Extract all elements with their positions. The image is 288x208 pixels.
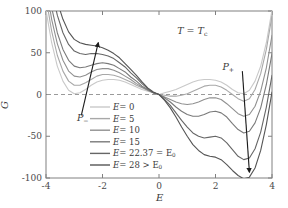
x-tick-label: 0 bbox=[150, 182, 168, 191]
temperature-condition: T = Tc bbox=[177, 26, 207, 37]
legend-label-E=5: E= 5 bbox=[113, 115, 134, 124]
x-axis-label: E bbox=[156, 193, 163, 203]
curve-E=5 bbox=[46, 0, 272, 101]
curve-E=22.37 bbox=[46, 0, 272, 160]
y-tick-label: 0 bbox=[14, 91, 42, 100]
x-tick-label: 4 bbox=[263, 182, 281, 191]
figure-container: -4-2024-100-50050100 G E T = TcP−P+ E= 0… bbox=[0, 0, 288, 208]
p-minus-label: P− bbox=[77, 113, 89, 124]
curve-E=0 bbox=[46, 10, 272, 94]
x-tick-label: -2 bbox=[94, 182, 112, 191]
y-tick-label: -50 bbox=[14, 132, 42, 141]
legend-label-E=28: E= 28 > E0 bbox=[113, 161, 162, 171]
p-plus-arrow bbox=[242, 71, 249, 172]
legend-swatches bbox=[90, 107, 110, 165]
y-tick-label: 50 bbox=[14, 49, 42, 58]
legend-label-E=0: E= 0 bbox=[113, 103, 134, 112]
chart-canvas bbox=[0, 0, 288, 208]
x-tick-label: -4 bbox=[37, 182, 55, 191]
legend-label-E=10: E= 10 bbox=[113, 126, 140, 135]
y-tick-label: -100 bbox=[14, 174, 42, 183]
x-tick-label: 2 bbox=[207, 182, 225, 191]
y-axis-label: G bbox=[0, 101, 10, 109]
p-plus-label: P+ bbox=[222, 62, 234, 73]
y-tick-label: 100 bbox=[14, 7, 42, 16]
legend-label-E=15: E= 15 bbox=[113, 138, 140, 147]
legend-label-E=22.37: E= 22.37 = E0 bbox=[113, 149, 176, 159]
